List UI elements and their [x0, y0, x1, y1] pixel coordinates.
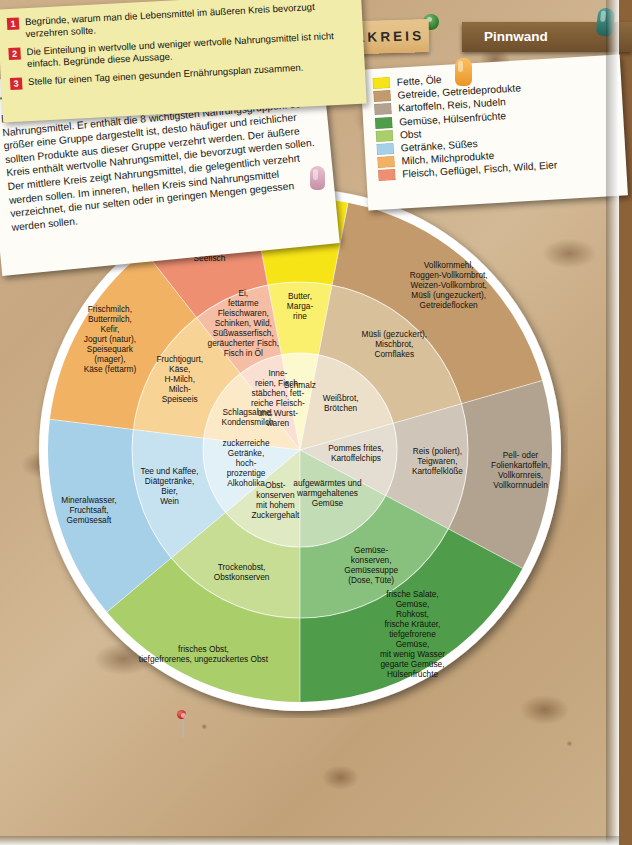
legend-swatch: [374, 103, 392, 115]
task-number-badge: 1: [7, 17, 20, 30]
pin-orange2-icon: [455, 58, 472, 86]
task-card: 1Begründe, warum man die Lebensmittel im…: [0, 0, 367, 122]
segment-mid-label-4: Trockenobst,Obstkonserven: [214, 562, 270, 582]
legend-swatch: [375, 117, 393, 129]
legend-swatch: [373, 90, 391, 102]
segment-mid-label-2: Reis (poliert),Teigwaren,Kartoffelklöße: [412, 446, 463, 476]
pin-pink-icon: [310, 166, 325, 190]
legend-swatch: [376, 143, 394, 155]
legend-swatch: [378, 169, 396, 181]
segment-outer-label-6: Frischmilch,Buttermilch,Kefir,Jogurt (na…: [84, 304, 137, 374]
legend-label: Obst: [400, 128, 422, 140]
task-number-badge: 2: [8, 47, 21, 60]
legend-swatch: [373, 77, 391, 89]
legend-label: Fette, Öle: [397, 74, 442, 88]
segment-inner-label-1: Weißbrot,Brötchen: [323, 393, 359, 413]
task-number-badge: 3: [10, 77, 23, 90]
page-bottom-shadow: [0, 836, 619, 845]
page-edge-shadow: [606, 0, 619, 845]
segment-outer-label-5: Mineralwasser,Fruchtsaft,Gemüsesaft: [61, 495, 116, 525]
legend-swatch: [377, 156, 395, 168]
legend-card: Fette, ÖleGetreide, GetreideprodukteKart…: [360, 54, 628, 210]
legend-rows: Fette, ÖleGetreide, GetreideprodukteKart…: [373, 64, 617, 181]
task-rows: 1Begründe, warum man die Lebensmittel im…: [7, 0, 355, 90]
pin-red-icon: [177, 710, 186, 719]
pin-needle-red: [182, 718, 184, 738]
segment-inner-label-2: Pommes frites,Kartoffelchips: [328, 443, 383, 463]
legend-swatch: [376, 130, 394, 142]
